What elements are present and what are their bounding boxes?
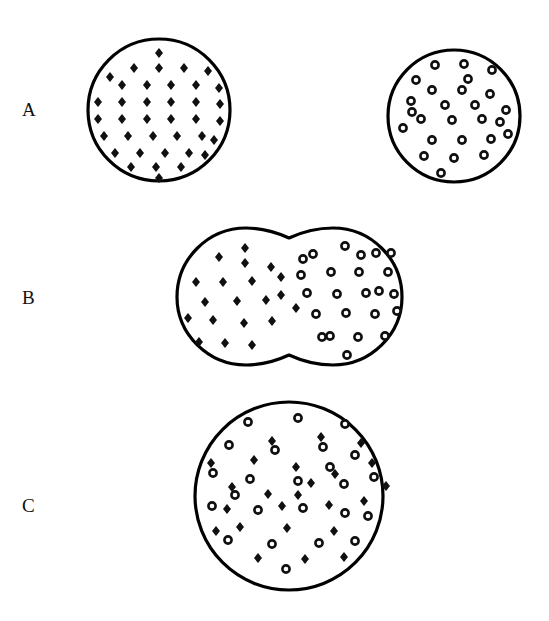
row-b-group [177,228,402,365]
figure-drawing [0,0,549,621]
row-label-c: C [22,496,35,515]
fused-cell-outline [177,228,402,365]
mixed-cell-markers [207,414,390,572]
row-a-group [88,39,520,183]
row-label-a: A [22,100,36,119]
cell-diamond-labeled-outline [88,39,230,181]
fused-cell-right-lobe-markers [297,242,400,358]
figure-canvas: A B C [0,0,549,621]
cell-ring-labeled-markers [399,60,511,176]
mixed-cell-outline [195,402,383,590]
cell-diamond-labeled-markers [94,48,224,183]
cell-ring-labeled-outline [388,50,520,182]
row-c-group [195,402,390,590]
row-label-b: B [22,288,35,307]
fused-cell-left-lobe-markers [184,243,300,350]
